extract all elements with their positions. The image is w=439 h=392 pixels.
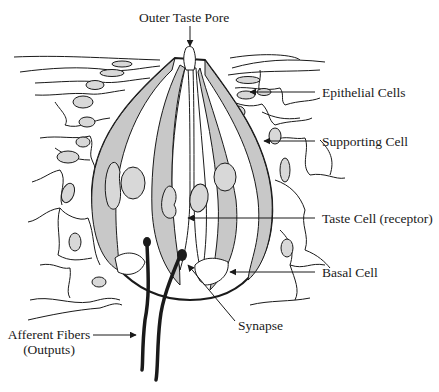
label-epithelial-cells: Epithelial Cells [322,85,406,100]
label-outer-taste-pore: Outer Taste Pore [139,10,229,25]
label-basal-cell: Basal Cell [322,265,378,280]
label-taste-cell: Taste Cell (receptor) [322,211,433,226]
label-afferent-fibers: Afferent Fibers (Outputs) [4,327,94,357]
label-supporting-cell: Supporting Cell [322,134,408,149]
label-afferent-fibers-line1: Afferent Fibers [4,327,94,342]
outer-taste-pore [184,47,196,71]
label-synapse: Synapse [238,318,283,333]
label-afferent-fibers-line2: (Outputs) [4,342,94,357]
